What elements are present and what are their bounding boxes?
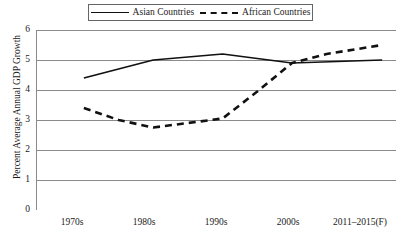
y-tick-label-5: 5 <box>6 55 30 65</box>
series-line-asian-countries <box>84 54 382 78</box>
x-tick-label-1990s: 1990s <box>180 218 252 234</box>
y-axis-tick-labels: 6543210 <box>6 30 30 210</box>
legend-label-african-countries: African Countries <box>242 8 310 18</box>
x-tick-label-1980s: 1980s <box>108 218 180 234</box>
y-tick-label-6: 6 <box>6 25 30 35</box>
y-tick-label-0: 0 <box>6 205 30 215</box>
x-tick-label-1970s: 1970s <box>36 218 108 234</box>
legend-entry-asian-countries: Asian Countries <box>91 8 194 18</box>
plot-svg <box>36 30 396 210</box>
y-tick-label-4: 4 <box>6 85 30 95</box>
legend-solid-line-icon <box>91 12 129 13</box>
series-line-african-countries <box>84 45 382 128</box>
chart-legend: Asian Countries African Countries <box>88 4 313 21</box>
legend-entry-african-countries: African Countries <box>200 8 310 18</box>
x-tick-label-2000s: 2000s <box>252 218 324 234</box>
plot-area <box>36 30 396 210</box>
y-tick-label-1: 1 <box>6 175 30 185</box>
axis-lines <box>36 30 37 210</box>
y-tick-label-2: 2 <box>6 145 30 155</box>
legend-dashed-line-icon <box>200 12 238 14</box>
y-tick-label-3: 3 <box>6 115 30 125</box>
x-axis-tick-labels: 1970s1980s1990s2000s2011–2015(F) <box>36 218 396 234</box>
gdp-growth-line-chart: Asian Countries African Countries Percen… <box>0 0 405 246</box>
legend-label-asian-countries: Asian Countries <box>133 8 194 18</box>
x-tick-label-2011-2015-f: 2011–2015(F) <box>324 218 396 234</box>
data-series-layer <box>84 45 382 128</box>
